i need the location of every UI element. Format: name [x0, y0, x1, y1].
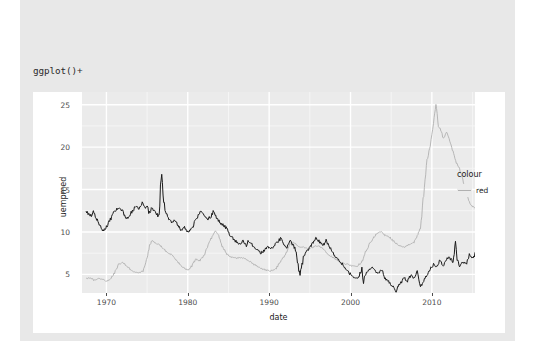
legend-key-line: [458, 190, 471, 191]
x-tick-mark: [106, 293, 107, 296]
x-tick-mark: [269, 293, 270, 296]
gridlines-major: [82, 92, 475, 293]
x-tick-label: 1970: [86, 298, 126, 307]
x-tick-label: 2010: [412, 298, 452, 307]
content-card: ggplot()+ geom_line(data=economics,aes(x…: [20, 0, 515, 341]
plot-canvas: uempmed date 510152025 19701980199020002…: [33, 92, 505, 333]
legend: colour red: [457, 170, 517, 197]
x-tick-label: 1990: [249, 298, 289, 307]
legend-entry[interactable]: red: [457, 184, 517, 197]
gridlines-minor: [82, 92, 475, 293]
x-tick-mark: [432, 293, 433, 296]
screenshot-root: ggplot()+ geom_line(data=economics,aes(x…: [0, 0, 542, 357]
legend-entry-label: red: [476, 186, 488, 195]
x-tick-label: 1980: [168, 298, 208, 307]
x-tick-mark: [188, 293, 189, 296]
series-uempmed: [86, 104, 475, 281]
plot-series-svg: [82, 92, 475, 293]
series-layer: [86, 104, 475, 292]
legend-title: colour: [457, 170, 517, 179]
x-tick-label: 2000: [331, 298, 371, 307]
legend-entries: red: [457, 184, 517, 197]
x-tick-mark: [351, 293, 352, 296]
plot-panel: [82, 92, 475, 293]
legend-key-swatch: [457, 184, 472, 197]
code-line-1: ggplot()+: [33, 62, 503, 80]
